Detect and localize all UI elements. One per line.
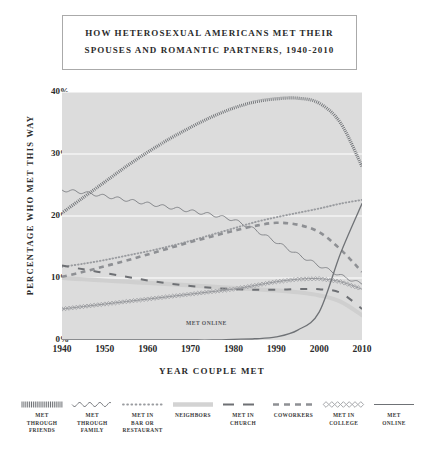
y-axis-tick: 0%	[9, 334, 69, 344]
x-axis-tick: 2000	[297, 344, 341, 354]
y-axis-tick: 20%	[9, 210, 69, 220]
legend-swatch-church-icon	[221, 396, 265, 407]
legend-label-bar: MET IN BAR OR RESTAURANT	[122, 412, 162, 435]
legend-label-friends: MET THROUGH FRIENDS	[27, 412, 58, 435]
x-axis-tick: 2010	[340, 344, 384, 354]
legend-item-college[interactable]: MET IN COLLEGE	[320, 396, 368, 427]
legend-item-online[interactable]: MET ONLINE	[370, 396, 418, 427]
y-axis-tick: 40%	[9, 86, 69, 96]
met-online-annotation: MET ONLINE	[186, 320, 227, 326]
legend-swatch-friends-icon	[20, 396, 64, 407]
x-axis-title: YEAR COUPLE MET	[62, 366, 362, 376]
chart-title-box: HOW HETEROSEXUAL AMERICANS MET THEIR SPO…	[62, 15, 357, 70]
series-coworkers	[62, 223, 362, 277]
plot-area	[62, 92, 362, 340]
legend-swatch-bar-icon	[121, 396, 165, 407]
y-axis-tick: 10%	[9, 272, 69, 282]
legend-swatch-family-icon	[70, 396, 114, 407]
chart-page: HOW HETEROSEXUAL AMERICANS MET THEIR SPO…	[0, 0, 435, 466]
legend-swatch-neighbors-icon	[171, 396, 215, 407]
chart-canvas	[62, 92, 362, 340]
chart-legend: MET THROUGH FRIENDSMET THROUGH FAMILYMET…	[18, 396, 418, 458]
legend-label-family: MET THROUGH FAMILY	[77, 412, 108, 435]
legend-item-family[interactable]: MET THROUGH FAMILY	[68, 396, 116, 435]
x-axis-tick: 1950	[83, 344, 127, 354]
legend-label-church: MET IN CHURCH	[230, 412, 256, 427]
chart-title-line-2: SPOUSES AND ROMANTIC PARTNERS, 1940-2010	[67, 42, 352, 59]
y-axis-tick: 30%	[9, 148, 69, 158]
chart-title-line-1: HOW HETEROSEXUAL AMERICANS MET THEIR	[67, 25, 352, 42]
x-axis-tick: 1990	[254, 344, 298, 354]
x-axis-tick: 1970	[169, 344, 213, 354]
legend-label-coworkers: COWORKERS	[274, 412, 313, 420]
legend-item-neighbors[interactable]: NEIGHBORS	[169, 396, 217, 420]
x-axis-tick: 1980	[211, 344, 255, 354]
legend-label-neighbors: NEIGHBORS	[175, 412, 211, 420]
legend-swatch-college-icon	[322, 396, 366, 407]
x-axis-tick: 1940	[40, 344, 84, 354]
series-bar	[62, 200, 362, 267]
legend-swatch-coworkers-icon	[271, 396, 315, 407]
legend-item-friends[interactable]: MET THROUGH FRIENDS	[18, 396, 66, 435]
legend-label-college: MET IN COLLEGE	[329, 412, 358, 427]
legend-swatch-online-icon	[372, 396, 416, 407]
x-axis-tick: 1960	[126, 344, 170, 354]
series-friends	[62, 98, 362, 213]
legend-item-bar[interactable]: MET IN BAR OR RESTAURANT	[119, 396, 167, 435]
legend-item-church[interactable]: MET IN CHURCH	[219, 396, 267, 427]
series-neighbors	[62, 278, 362, 315]
legend-label-online: MET ONLINE	[382, 412, 405, 427]
legend-item-coworkers[interactable]: COWORKERS	[269, 396, 317, 420]
